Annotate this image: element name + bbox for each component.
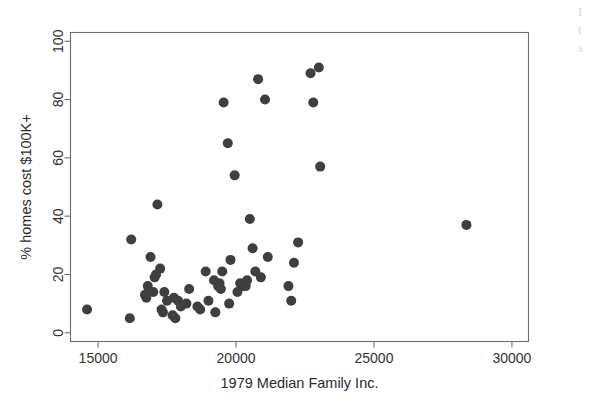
data-point [216,284,226,294]
y-tick-label: 40 [51,208,67,224]
data-point [210,307,220,317]
data-point [248,243,258,253]
data-point [158,307,168,317]
data-point [253,74,263,84]
edge-text-line: s [578,40,583,55]
data-point [217,267,227,277]
data-point [260,95,270,105]
data-point [245,214,255,224]
data-point [125,313,135,323]
data-point [286,296,296,306]
data-point [461,220,471,230]
data-point [314,62,324,72]
edge-text-line: I [578,4,582,19]
data-point [201,267,211,277]
data-point [256,272,266,282]
x-tick-label: 20000 [217,350,256,366]
data-point [306,68,316,78]
data-point [170,313,180,323]
data-point [152,199,162,209]
data-point [159,287,169,297]
data-point [195,304,205,314]
axis-labels-group: 150002000025000300000204060801001979 Med… [18,29,532,390]
x-axis-title: 1979 Median Family Inc. [221,375,379,391]
data-point [82,304,92,314]
y-tick-label: 20 [51,266,67,282]
data-point [226,255,236,265]
axes-group [65,33,529,348]
page-edge-text-fragment: Its [578,4,583,55]
data-point [230,170,240,180]
data-point [219,97,229,107]
data-points-group [82,62,471,323]
plot-frame [71,33,529,342]
x-tick-label: 30000 [492,350,531,366]
y-tick-label: 0 [51,329,67,337]
y-axis-title: % homes cost $100K+ [18,114,34,260]
data-point [263,252,273,262]
data-point [315,162,325,172]
data-point [242,275,252,285]
chart-canvas: 150002000025000300000204060801001979 Med… [0,0,598,401]
data-point [289,258,299,268]
data-point [184,284,194,294]
scatter-plot-figure: 150002000025000300000204060801001979 Med… [0,0,598,401]
x-tick-label: 25000 [355,350,394,366]
data-point [223,138,233,148]
y-tick-label: 80 [51,92,67,108]
data-point [181,299,191,309]
data-point [308,97,318,107]
data-point [126,234,136,244]
data-point [146,252,156,262]
data-point [155,264,165,274]
y-tick-label: 60 [51,150,67,166]
edge-text-line: t [578,22,582,37]
data-point [283,281,293,291]
data-point [224,299,234,309]
x-tick-label: 15000 [79,350,118,366]
data-point [293,237,303,247]
y-tick-label: 100 [51,29,67,53]
data-point [203,296,213,306]
data-point [148,287,158,297]
